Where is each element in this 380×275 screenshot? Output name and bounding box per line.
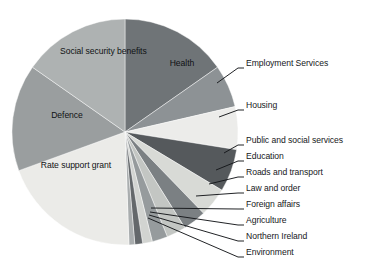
callout-label-environment: Environment bbox=[246, 248, 294, 257]
callout-label-foreign-affairs: Foreign affairs bbox=[246, 200, 300, 209]
callout-label-public-and-social-services: Public and social services bbox=[246, 136, 343, 145]
callout-label-education: Education bbox=[246, 152, 284, 161]
slice-label-social-security-benefits: Social security benefits bbox=[60, 46, 122, 56]
callout-label-housing: Housing bbox=[246, 101, 277, 110]
callout-label-roads-and-transport: Roads and transport bbox=[246, 168, 323, 177]
callout-label-northern-ireland: Northern Ireland bbox=[246, 232, 307, 241]
slice-label-defence: Defence bbox=[44, 110, 90, 120]
callout-label-law-and-order: Law and order bbox=[246, 184, 300, 193]
callout-label-employment-services: Employment Services bbox=[246, 59, 328, 68]
slice-label-rate-support-grant: Rate support grant bbox=[32, 160, 120, 170]
callout-label-agriculture: Agriculture bbox=[246, 216, 287, 225]
pie-chart-figure: HealthSocial security benefitsDefenceRat… bbox=[0, 0, 380, 275]
slice-label-health: Health bbox=[160, 58, 204, 68]
